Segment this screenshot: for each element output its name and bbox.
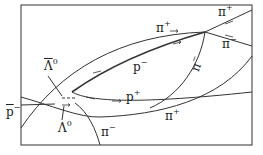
label-pi-plus-topright: π+ [218,6,233,18]
pointer-lambda [62,106,64,120]
label-lambda0: Λ0 [58,122,72,134]
label-pi-minus-right: π− [222,38,237,50]
label-p-minus: p− [133,61,147,73]
track-pi-minus-lower [75,103,100,145]
label-anti-lambda0: Λ0 [44,60,58,72]
label-pi-plus-top: π+ [156,22,171,34]
label-pi-minus-bottom: π− [101,126,116,138]
track-pbar-beam [21,104,55,105]
track-p-plus [72,92,252,100]
track-diagram [0,0,263,155]
label-p-plus: p+ [126,91,140,103]
label-pbar-beam: p− [6,106,20,118]
label-pi-plus-bottom: π+ [165,110,180,122]
